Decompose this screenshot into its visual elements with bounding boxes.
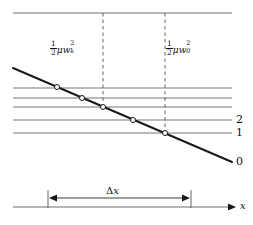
left-subsup: 2k [70, 41, 74, 54]
right-fraction-denominator: 2 [166, 48, 173, 57]
left-energy-label: 1 2 μw2k [50, 40, 75, 56]
intersection-marker-3 [131, 118, 136, 123]
right-subscript: 0 [186, 48, 190, 55]
left-variable-symbol: w [63, 45, 71, 55]
right-fraction-numerator: 1 [166, 40, 173, 48]
right-superscript: 2 [186, 40, 190, 47]
x-axis-arrowhead [228, 204, 236, 211]
right-subsup: 20 [186, 41, 190, 54]
diagonal-energy-line [13, 68, 232, 162]
intersection-marker-0 [55, 85, 60, 90]
intersection-marker-2 [101, 105, 106, 110]
intersection-marker-4 [163, 131, 168, 136]
x-axis-label: x [240, 201, 246, 211]
level-label-2: 2 [236, 114, 243, 125]
dx-right-arrowhead [182, 195, 190, 202]
right-fraction: 1 2 [166, 40, 173, 56]
intersection-marker-1 [80, 96, 85, 101]
left-fraction-numerator: 1 [50, 40, 57, 48]
dx-left-arrowhead [49, 195, 57, 202]
left-subscript: k [70, 48, 74, 55]
vertical-dashed-lines [103, 13, 165, 133]
energy-level-lines [13, 88, 232, 133]
delta-x-measure [48, 190, 191, 208]
delta-x-label: Δx [106, 186, 119, 196]
left-fraction: 1 2 [50, 40, 57, 56]
figure-canvas [0, 0, 253, 225]
delta-x-variable: x [113, 185, 119, 196]
level-label-1: 1 [236, 127, 243, 138]
left-fraction-denominator: 2 [50, 48, 57, 57]
right-variable-symbol: w [179, 45, 187, 55]
energy-level-figure: 1 2 μw2k 1 2 μw20 210 Δx x [0, 0, 253, 225]
level-label-0: 0 [236, 156, 243, 167]
left-superscript: 2 [70, 40, 74, 47]
right-energy-label: 1 2 μw20 [166, 40, 191, 56]
